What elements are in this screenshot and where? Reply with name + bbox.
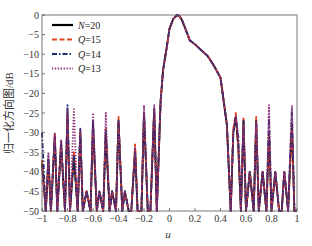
- y-axis-label: 归一化方向图/dB: [2, 72, 15, 154]
- x-axis-label: u: [165, 228, 171, 240]
- y-tick-label: −35: [23, 147, 39, 158]
- y-tick-label: −5: [28, 29, 39, 40]
- x-tick-label: 0: [167, 213, 172, 224]
- y-tick-label: −25: [23, 108, 39, 119]
- x-tick-label: −0.2: [135, 213, 153, 224]
- y-tick-label: −40: [23, 166, 39, 177]
- legend-label-2: Q=14: [78, 49, 101, 60]
- y-tick-label: 0: [34, 10, 39, 21]
- chart-figure: −1−0.8−0.6−0.4−0.200.20.40.60.81 0−5−10−…: [0, 0, 312, 246]
- y-tick-label: −30: [23, 127, 39, 138]
- x-tick-label: −0.6: [84, 213, 102, 224]
- x-tick-label: 0.4: [214, 213, 227, 224]
- legend-label-0: N=20: [77, 20, 100, 31]
- legend-label-1: Q=15: [78, 34, 101, 45]
- y-tick-label: −10: [23, 49, 39, 60]
- y-tick-label: −15: [23, 68, 39, 79]
- legend: N=20Q=15Q=14Q=13: [52, 20, 101, 75]
- x-tick-label: 0.2: [189, 213, 202, 224]
- legend-label-3: Q=13: [78, 63, 101, 74]
- x-tick-label: 0.6: [240, 213, 253, 224]
- x-tick-label: −0.4: [109, 213, 127, 224]
- x-tick-label: −0.8: [58, 213, 76, 224]
- x-tick-label: 0.8: [265, 213, 278, 224]
- x-tick-label: 1: [295, 213, 300, 224]
- y-tick-label: −50: [23, 206, 39, 217]
- y-tick-label: −20: [23, 88, 39, 99]
- y-tick-label: −45: [23, 186, 39, 197]
- x-axis-ticks: −1−0.8−0.6−0.4−0.200.20.40.60.81: [37, 208, 300, 224]
